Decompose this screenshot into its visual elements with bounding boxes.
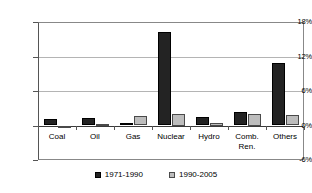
legend-label: 1971-1990 — [105, 170, 143, 179]
x-axis-tick-mark — [76, 126, 77, 130]
legend-swatch-icon — [169, 172, 175, 178]
bar-1990-2005-Hydro — [210, 123, 223, 126]
chart-legend: 1971-19901990-2005 — [0, 170, 312, 179]
bar-1971-1990-CombRen — [234, 112, 247, 126]
x-axis-category-label: Nuclear — [152, 132, 190, 142]
bar-1990-2005-Oil — [96, 124, 109, 126]
x-axis-category-label: Others — [266, 132, 304, 142]
x-axis-tick-mark — [228, 126, 229, 130]
x-axis-tick-mark — [266, 126, 267, 130]
bar-1990-2005-Nuclear — [172, 114, 185, 126]
bar-1990-2005-Gas — [134, 116, 147, 125]
bar-1971-1990-Others — [272, 63, 285, 125]
x-axis-tick-mark — [152, 126, 153, 130]
x-axis-category-label: Comb. Ren. — [228, 132, 266, 152]
y-axis-tick-mark — [33, 160, 38, 161]
legend-label: 1990-2005 — [179, 170, 217, 179]
bar-1990-2005-CombRen — [248, 114, 261, 126]
x-axis-category-label: Oil — [76, 132, 114, 142]
bar-1971-1990-Nuclear — [158, 32, 171, 126]
x-axis-tick-mark — [304, 126, 305, 130]
x-axis-category-label: Hydro — [190, 132, 228, 142]
x-axis-tick-mark — [190, 126, 191, 130]
bar-1990-2005-Coal — [58, 126, 71, 128]
x-axis-category-label: Gas — [114, 132, 152, 142]
bar-1971-1990-Oil — [82, 118, 95, 125]
legend-item: 1990-2005 — [169, 170, 217, 179]
legend-item: 1971-1990 — [95, 170, 143, 179]
x-axis-tick-mark — [38, 126, 39, 130]
bar-1971-1990-Gas — [120, 123, 133, 125]
bar-1971-1990-Hydro — [196, 117, 209, 125]
x-axis-category-label: Coal — [38, 132, 76, 142]
bar-1990-2005-Others — [286, 115, 299, 125]
bar-1971-1990-Coal — [44, 119, 57, 126]
bar-chart-figure: 18%12%6%0%-6% CoalOilGasNuclearHydroComb… — [0, 0, 312, 193]
legend-swatch-icon — [95, 172, 101, 178]
x-axis-tick-mark — [114, 126, 115, 130]
